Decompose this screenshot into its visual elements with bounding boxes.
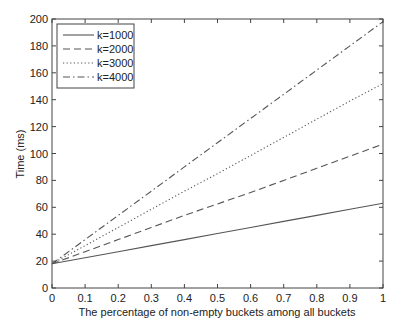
y-tick-label: 180 bbox=[30, 40, 48, 52]
y-tick-label: 20 bbox=[36, 255, 48, 267]
legend: k=1000k=2000k=3000k=4000 bbox=[57, 24, 134, 88]
x-tick-label: 0.1 bbox=[77, 292, 92, 304]
x-tick-label: 0.5 bbox=[210, 292, 225, 304]
y-tick-label: 100 bbox=[30, 148, 48, 160]
y-axis-label: Time (ms) bbox=[14, 129, 26, 178]
y-tick-label: 80 bbox=[36, 174, 48, 186]
x-axis-label: The percentage of non-empty buckets amon… bbox=[79, 306, 356, 318]
x-tick-label: 0.9 bbox=[342, 292, 357, 304]
y-tick-label: 60 bbox=[36, 201, 48, 213]
legend-label: k=4000 bbox=[97, 71, 133, 83]
y-tick-label: 160 bbox=[30, 67, 48, 79]
y-tick-label: 40 bbox=[36, 228, 48, 240]
x-tick-label: 0.3 bbox=[144, 292, 159, 304]
y-tick-label: 120 bbox=[30, 121, 48, 133]
x-tick-label: 0.8 bbox=[309, 292, 324, 304]
legend-label: k=3000 bbox=[97, 57, 133, 69]
line-chart: 00.10.20.30.40.50.60.70.80.9102040608010… bbox=[0, 0, 399, 330]
x-tick-label: 1 bbox=[380, 292, 386, 304]
x-tick-label: 0.7 bbox=[276, 292, 291, 304]
x-tick-label: 0.6 bbox=[243, 292, 258, 304]
x-tick-label: 0.2 bbox=[111, 292, 126, 304]
y-tick-label: 0 bbox=[42, 282, 48, 294]
y-tick-label: 140 bbox=[30, 94, 48, 106]
y-tick-label: 200 bbox=[30, 13, 48, 25]
legend-label: k=1000 bbox=[97, 29, 133, 41]
x-tick-label: 0 bbox=[49, 292, 55, 304]
x-tick-label: 0.4 bbox=[177, 292, 192, 304]
legend-label: k=2000 bbox=[97, 43, 133, 55]
